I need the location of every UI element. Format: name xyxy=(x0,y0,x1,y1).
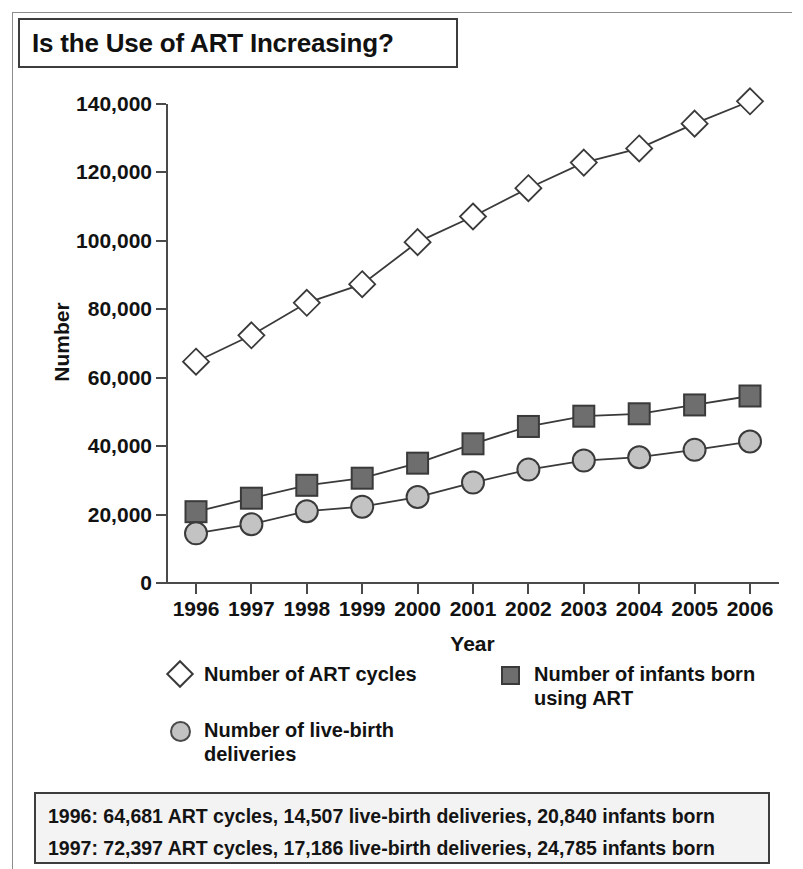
footnote-line-1997: 1997: 72,397 ART cycles, 17,186 live-bir… xyxy=(48,833,756,864)
data-point-square xyxy=(407,453,428,474)
data-point-square xyxy=(241,488,262,509)
filled-square-icon xyxy=(496,660,526,690)
legend-label-live-birth-deliveries: Number of live-birth deliveries xyxy=(204,716,394,766)
data-point-diamond xyxy=(294,290,320,316)
data-point-circle xyxy=(240,513,262,535)
data-point-circle xyxy=(185,522,207,544)
data-point-square xyxy=(186,501,207,522)
data-point-diamond xyxy=(626,135,652,161)
data-point-circle xyxy=(462,472,484,494)
data-point-diamond xyxy=(238,322,264,348)
data-point-circle xyxy=(407,486,429,508)
open-diamond-icon xyxy=(166,660,196,690)
chart-page: Is the Use of ART Increasing? 020,00040,… xyxy=(0,0,803,869)
data-point-diamond xyxy=(405,229,431,255)
legend-label-infants-born: Number of infants born using ART xyxy=(534,660,755,710)
filled-circle-icon xyxy=(166,716,196,746)
data-point-square xyxy=(518,416,539,437)
data-point-diamond xyxy=(737,88,763,114)
legend-label-art-cycles: Number of ART cycles xyxy=(204,660,417,687)
data-point-circle xyxy=(517,459,539,481)
data-point-diamond xyxy=(460,203,486,229)
data-point-square xyxy=(352,468,373,489)
footnote-box: 1996: 64,681 ART cycles, 14,507 live-bir… xyxy=(34,792,770,864)
data-point-square xyxy=(463,433,484,454)
legend-item-live-birth-deliveries[interactable]: Number of live-birth deliveries xyxy=(166,716,466,766)
data-point-diamond xyxy=(349,271,375,297)
data-point-diamond xyxy=(515,175,541,201)
data-point-diamond xyxy=(682,111,708,137)
data-point-diamond xyxy=(571,150,597,176)
data-point-square xyxy=(296,475,317,496)
legend-item-art-cycles[interactable]: Number of ART cycles xyxy=(166,660,466,690)
series-diamond xyxy=(183,88,763,374)
data-point-circle xyxy=(351,496,373,518)
legend-item-infants-born[interactable]: Number of infants born using ART xyxy=(496,660,786,710)
data-point-circle xyxy=(684,439,706,461)
series-line xyxy=(196,101,750,361)
data-point-square xyxy=(740,385,761,406)
data-point-circle xyxy=(573,450,595,472)
data-point-square xyxy=(573,406,594,427)
data-point-circle xyxy=(628,446,650,468)
data-point-square xyxy=(629,403,650,424)
data-point-circle xyxy=(296,500,318,522)
series-square xyxy=(186,385,761,522)
footnote-line-1996: 1996: 64,681 ART cycles, 14,507 live-bir… xyxy=(48,801,756,833)
data-point-circle xyxy=(739,431,761,453)
data-point-square xyxy=(684,394,705,415)
data-point-diamond xyxy=(183,349,209,375)
